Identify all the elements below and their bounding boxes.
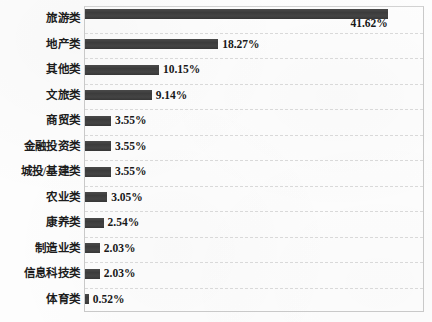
bar [85, 218, 104, 228]
bar-with-label: 2.03% [85, 243, 135, 255]
bar-with-label: 0.52% [85, 294, 124, 306]
bar-row: 文旅类9.14% [0, 83, 432, 109]
bar-with-label: 3.55% [85, 115, 147, 127]
category-label: 城投/基建类 [0, 166, 80, 178]
bar-row: 康养类2.54% [0, 210, 432, 236]
bar [85, 167, 111, 177]
bar [85, 141, 111, 151]
bar-with-label: 2.03% [85, 268, 135, 280]
category-label: 康养类 [0, 217, 80, 229]
bar [85, 116, 111, 126]
value-label: 2.03% [104, 243, 136, 255]
bar-row: 制造业类2.03% [0, 236, 432, 262]
bar-with-label: 9.14% [85, 90, 187, 102]
category-label: 信息科技类 [0, 268, 80, 280]
bar-with-label: 10.15% [85, 64, 200, 76]
category-label: 文旅类 [0, 90, 80, 102]
category-label: 制造业类 [0, 243, 80, 255]
category-label: 地产类 [0, 39, 80, 51]
bleed-text-line: ···· ·· ···· ·· ····· ····· ·· ···· ·· ·… [96, 315, 383, 319]
bar-row: 城投/基建类3.55% [0, 159, 432, 185]
bar [85, 294, 89, 304]
value-label: 0.52% [93, 294, 125, 306]
value-label: 2.03% [104, 268, 136, 280]
value-label: 3.55% [115, 115, 147, 127]
bar-row: 信息科技类2.03% [0, 261, 432, 287]
bar-with-label: 3.55% [85, 141, 147, 153]
bar [85, 269, 100, 279]
bar-series: 旅游类41.62%地产类18.27%其他类10.15%文旅类9.14%商贸类3.… [0, 6, 432, 312]
bar-with-label: 18.27% [85, 39, 260, 51]
value-label: 3.55% [115, 166, 147, 178]
bar-row: 体育类0.52% [0, 287, 432, 313]
value-label: 3.55% [115, 141, 147, 153]
bar [85, 243, 100, 253]
bar-row: 地产类18.27% [0, 32, 432, 58]
category-label: 体育类 [0, 294, 80, 306]
bar [85, 65, 159, 75]
category-label: 旅游类 [0, 13, 80, 25]
bar-with-label: 41.62% [85, 9, 426, 30]
page-bleed-text: ···· ·· ···· ·· ····· ····· ·· ···· ·· ·… [0, 315, 432, 322]
bar-row: 旅游类41.62% [0, 6, 432, 32]
bar-row: 金融投资类3.55% [0, 134, 432, 160]
value-label: 2.54% [108, 217, 140, 229]
bar-row: 其他类10.15% [0, 57, 432, 83]
value-label: 18.27% [222, 39, 259, 51]
bar-chart: 旅游类41.62%地产类18.27%其他类10.15%文旅类9.14%商贸类3.… [0, 0, 432, 322]
category-label: 商贸类 [0, 115, 80, 127]
value-label: 10.15% [163, 64, 200, 76]
bar-with-label: 2.54% [85, 217, 139, 229]
bar [85, 39, 218, 49]
category-label: 农业类 [0, 192, 80, 204]
bar-row: 农业类3.05% [0, 185, 432, 211]
value-label: 3.05% [111, 192, 143, 204]
category-label: 金融投资类 [0, 141, 80, 153]
value-label: 9.14% [156, 90, 188, 102]
category-label: 其他类 [0, 64, 80, 76]
bar-with-label: 3.05% [85, 192, 143, 204]
bar [85, 90, 152, 100]
value-label: 41.62% [350, 18, 387, 30]
bar [85, 9, 388, 19]
bar-row: 商贸类3.55% [0, 108, 432, 134]
bar [85, 192, 107, 202]
bar-with-label: 3.55% [85, 166, 147, 178]
